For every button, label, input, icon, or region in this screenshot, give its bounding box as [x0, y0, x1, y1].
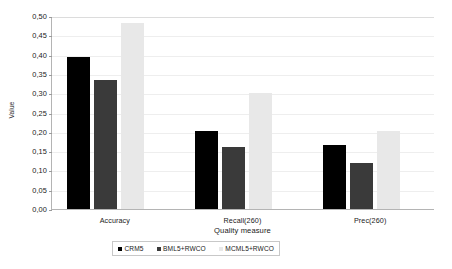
y-axis-tick-label: 0,30 — [13, 89, 47, 98]
bar-chart-figure: Value 0,000,050,100,150,200,250,300,350,… — [0, 0, 452, 269]
gridline — [52, 17, 434, 18]
legend-label: MCML5+RWCO — [225, 245, 274, 252]
y-axis-tick-label: 0,45 — [13, 31, 47, 40]
y-axis-tick-label: 0,05 — [13, 186, 47, 195]
y-axis-tick-mark — [49, 210, 52, 211]
legend-entry[interactable]: MCML5+RWCO — [219, 245, 274, 252]
bar — [94, 80, 117, 209]
legend-swatch-icon — [118, 247, 122, 251]
gridline — [52, 75, 434, 76]
y-axis-tick-mark — [49, 94, 52, 95]
chart-legend: CRM5BML5+RWCOMCML5+RWCO — [112, 241, 280, 256]
gridline — [52, 56, 434, 57]
bar — [249, 93, 272, 209]
legend-swatch-icon — [219, 247, 223, 251]
y-axis-tick-mark — [49, 133, 52, 134]
bar — [121, 23, 144, 209]
x-axis-category-label: Recall(260) — [179, 216, 307, 225]
y-axis-tick-mark — [49, 191, 52, 192]
y-axis-tick-mark — [49, 114, 52, 115]
bar — [195, 131, 218, 209]
y-axis-tick-mark — [49, 171, 52, 172]
y-axis-tick-label: 0,40 — [13, 51, 47, 60]
y-axis-tick-mark — [49, 36, 52, 37]
y-axis-tick-label: 0,00 — [13, 205, 47, 214]
bar — [67, 57, 90, 209]
legend-label: CRM5 — [125, 245, 144, 252]
gridline — [52, 36, 434, 37]
x-axis-category-label: Prec(260) — [306, 216, 434, 225]
y-axis-tick-label: 0,35 — [13, 70, 47, 79]
y-axis-tick-label: 0,25 — [13, 109, 47, 118]
y-axis-tick-mark — [49, 56, 52, 57]
y-axis-tick-mark — [49, 152, 52, 153]
y-axis-tick-label: 0,15 — [13, 147, 47, 156]
legend-entry[interactable]: BML5+RWCO — [157, 245, 206, 252]
bar — [377, 131, 400, 209]
y-axis-tick-label: 0,10 — [13, 166, 47, 175]
x-axis-title: Quality measure — [51, 226, 434, 235]
plot-area — [51, 17, 434, 210]
y-axis-tick-label: 0,50 — [13, 12, 47, 21]
x-axis-category-label: Accuracy — [51, 216, 179, 225]
legend-entry[interactable]: CRM5 — [118, 245, 144, 252]
y-axis-tick-mark — [49, 75, 52, 76]
legend-swatch-icon — [157, 247, 161, 251]
bar — [350, 163, 373, 209]
legend-label: BML5+RWCO — [163, 245, 206, 252]
y-axis-tick-label: 0,20 — [13, 128, 47, 137]
bar — [222, 147, 245, 209]
bar — [323, 145, 346, 209]
y-axis-tick-mark — [49, 17, 52, 18]
